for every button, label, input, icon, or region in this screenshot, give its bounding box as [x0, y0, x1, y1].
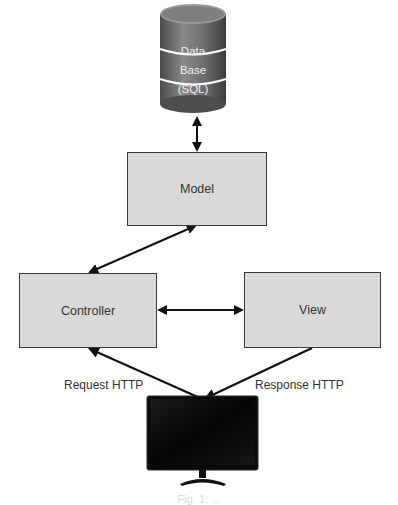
database-label: Data Base (SQL): [160, 42, 226, 99]
view-label: View: [299, 303, 326, 317]
request-label: Request HTTP: [64, 378, 143, 392]
database-line-3: (SQL): [160, 80, 226, 99]
figure-caption: Fig. 1: ...: [0, 493, 398, 505]
database-line-1: Data: [160, 42, 226, 61]
database-line-2: Base: [160, 61, 226, 80]
monitor-icon: [147, 396, 258, 486]
model-box: Model: [127, 152, 267, 226]
model-label: Model: [180, 182, 214, 196]
response-label: Response HTTP: [255, 378, 344, 392]
controller-label: Controller: [61, 304, 115, 318]
arrow-model-controller: [90, 226, 195, 272]
view-box: View: [244, 272, 381, 348]
controller-box: Controller: [19, 273, 157, 348]
